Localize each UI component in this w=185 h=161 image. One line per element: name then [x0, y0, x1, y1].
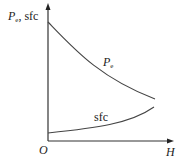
pe-curve: [48, 22, 155, 99]
pe-label-sub: e: [110, 62, 113, 70]
chart-canvas: [0, 0, 185, 161]
origin-label: O: [39, 144, 48, 156]
sfc-curve-label: sfc: [94, 111, 108, 123]
pe-curve-label: Pe: [103, 56, 113, 70]
x-axis-arrow-icon: [167, 139, 174, 144]
y-axis-label: Pe, sfc: [8, 10, 38, 24]
y-axis-label-rest: , sfc: [18, 9, 38, 23]
y-axis-arrow-icon: [46, 3, 51, 10]
x-axis-label: H: [166, 146, 175, 158]
